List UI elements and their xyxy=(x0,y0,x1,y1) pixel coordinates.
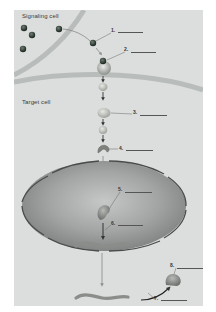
callout-4-blank[interactable] xyxy=(126,150,153,151)
transcription-factor-4 xyxy=(98,145,109,153)
callout-6-number: 6. xyxy=(111,221,115,226)
target-cell-membrane xyxy=(14,75,203,90)
callout-2-number: 2. xyxy=(124,47,128,52)
bound-ligand xyxy=(100,58,106,64)
signaling-cell-label: Signaling cell xyxy=(22,13,59,19)
callout-5-blank[interactable] xyxy=(125,192,152,193)
mrna-cytoplasm xyxy=(76,295,128,299)
callout-4-number: 4. xyxy=(119,146,123,151)
relay-protein-3 xyxy=(98,108,111,118)
callout-3-blank[interactable] xyxy=(140,115,167,116)
callout-8-blank[interactable] xyxy=(177,268,203,269)
callout-3-number: 3. xyxy=(133,110,137,115)
new-protein-8 xyxy=(166,274,181,286)
signaling-cell-membrane xyxy=(14,10,84,75)
callout-1-blank[interactable] xyxy=(118,32,143,33)
ligand-molecule-1 xyxy=(90,40,96,46)
relay-protein-b xyxy=(99,126,107,134)
callout-5-number: 5. xyxy=(118,187,122,192)
ligand-molecule xyxy=(29,32,35,38)
callout-6-blank[interactable] xyxy=(118,225,143,226)
callout-8-number: 8. xyxy=(170,263,174,268)
callout-1-number: 1. xyxy=(111,28,115,33)
ligand-molecule xyxy=(56,26,62,32)
relay-protein-a xyxy=(99,83,108,91)
callout-7-blank[interactable] xyxy=(161,300,187,301)
diagram-graphics xyxy=(14,10,203,306)
ligand-molecule xyxy=(21,25,27,31)
callout-7-number: 7. xyxy=(154,296,158,301)
cell-signaling-diagram: Signaling cell Target cell 1. 2. 3. 4. 5… xyxy=(14,10,203,306)
ligand-molecule xyxy=(20,46,26,52)
target-cell-label: Target cell xyxy=(22,99,50,105)
callout-2-blank[interactable] xyxy=(131,52,156,53)
